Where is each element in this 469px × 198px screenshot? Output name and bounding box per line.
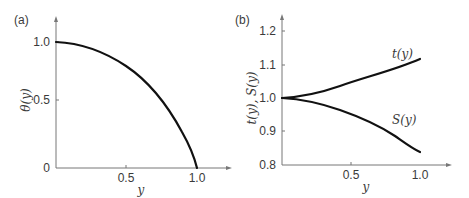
panel-b-label: (b) <box>235 13 250 27</box>
y-tick-label: 1.2 <box>259 24 276 38</box>
s-curve-label: S(y) <box>392 113 417 127</box>
y-tick-label: 1.0 <box>33 35 50 49</box>
y-tick-label: 1.1 <box>259 58 276 72</box>
x-axis-arrow-icon <box>226 166 232 170</box>
panel-a-label: (a) <box>14 13 29 27</box>
y-axis-arrow-icon <box>280 14 284 20</box>
x-axis-label: y <box>137 183 145 197</box>
y-axis-arrow-icon <box>54 16 58 22</box>
theta-curve <box>56 42 197 168</box>
x-axis-label: y <box>362 180 370 194</box>
panel-a: (a) 1.0 0.5 0 0.5 1.0 y θ(y) <box>14 13 232 197</box>
t-curve-label: t(y) <box>392 47 413 61</box>
x-axis-arrow-icon <box>446 163 452 167</box>
y-tick-label: 0.5 <box>33 93 50 107</box>
figure: (a) 1.0 0.5 0 0.5 1.0 y θ(y) (b) <box>0 0 469 198</box>
panel-b: (b) 1.2 1.1 1.0 0.9 0.8 0.5 1.0 y t(y), … <box>235 13 452 194</box>
x-tick-label: 0.5 <box>118 171 135 185</box>
y-axis-label: t(y), S(y) <box>245 71 259 124</box>
y-axis-label: θ(y) <box>19 88 33 112</box>
y-tick-label: 0.9 <box>259 124 276 138</box>
t-curve <box>282 59 420 98</box>
x-tick-label: 1.0 <box>412 168 429 182</box>
y-tick-label: 0 <box>43 161 50 175</box>
x-tick-label: 1.0 <box>189 171 206 185</box>
y-tick-label: 1.0 <box>259 91 276 105</box>
y-tick-label: 0.8 <box>259 158 276 172</box>
x-tick-label: 0.5 <box>343 168 360 182</box>
